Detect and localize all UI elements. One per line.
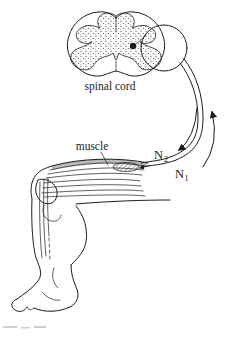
- muscle-label: muscle: [76, 140, 109, 152]
- shin-tendon-line: [40, 182, 42, 258]
- tibial-head: [43, 205, 61, 221]
- nerve-fiber-inner: [141, 63, 198, 163]
- foot-arch-line: [42, 292, 60, 300]
- heel-and-back-ankle: [70, 265, 78, 307]
- spinal-cord-section: [67, 12, 187, 76]
- spinal-cord-label: spinal cord: [85, 80, 136, 93]
- n1-label: N 1: [175, 167, 189, 183]
- n1-arrow-icon: [203, 112, 215, 167]
- n2-arrow-icon: [179, 108, 197, 150]
- n2-label-sub: 2: [164, 155, 168, 164]
- reflex-arc-diagram: spinal cord N 2 N 1 muscle: [0, 0, 225, 337]
- nerve-bundle: [140, 59, 215, 168]
- leg-outline: [12, 159, 170, 311]
- n1-label-sub: 1: [185, 174, 189, 183]
- shin-tendon-line-dashed: [49, 238, 50, 260]
- muscle-fiber: [46, 173, 142, 178]
- n2-label-base: N: [154, 148, 163, 162]
- muscle-spindle: [113, 163, 139, 172]
- n2-label: N 2: [154, 148, 168, 164]
- ankle-crease: [53, 268, 58, 288]
- cropped-text-fragment: [3, 326, 46, 329]
- diagram-canvas: spinal cord N 2 N 1 muscle: [0, 0, 225, 337]
- n1-label-base: N: [175, 167, 184, 181]
- second-toe: [27, 307, 34, 310]
- muscle-fiber: [43, 185, 141, 188]
- shin-tendon-line: [48, 178, 49, 236]
- calf-inner-line: [71, 206, 87, 265]
- muscle-fiber: [44, 179, 140, 183]
- muscle-fiber: [44, 195, 145, 197]
- foot-sole: [34, 307, 70, 311]
- big-toe: [12, 299, 27, 311]
- motor-neuron-soma-icon: [130, 43, 136, 49]
- nerve-fiber-outer: [141, 59, 203, 167]
- thigh-underside-line: [76, 200, 170, 204]
